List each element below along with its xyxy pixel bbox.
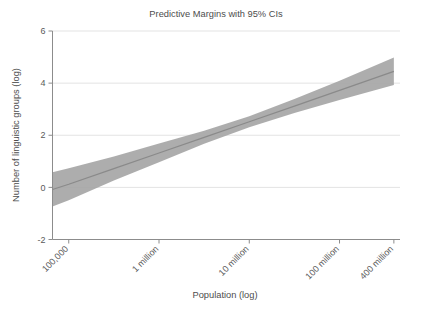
y-axis-title: Number of linguistic groups (log): [11, 68, 21, 202]
y-tick-label: 6: [40, 26, 45, 36]
y-tick-label: 2: [40, 130, 45, 140]
y-tick-label: 0: [40, 183, 45, 193]
y-tick-label: -2: [37, 235, 45, 245]
predictive-margins-chart: Predictive Margins with 95% CIs -20246 1…: [0, 0, 433, 312]
y-tick-label: 4: [40, 78, 45, 88]
chart-svg: Predictive Margins with 95% CIs -20246 1…: [0, 0, 433, 312]
chart-title: Predictive Margins with 95% CIs: [149, 9, 283, 19]
x-axis-title: Population (log): [192, 290, 257, 300]
